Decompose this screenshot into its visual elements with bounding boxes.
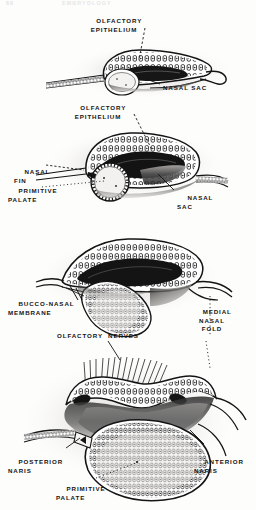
label-fig4-anterior-naris: ANTERIOR NARIS	[194, 450, 254, 484]
label-fig1-olfactory-epithelium: OLFACTORY EPITHELIUM	[74, 9, 154, 43]
label-fig2-olfactory-epithelium: OLFACTORY EPITHELIUM	[58, 96, 138, 130]
label-fig4-olfactory-nerves: OLFACTORY NERVES	[57, 332, 139, 340]
label-fig2-nasal-sac: NASAL SAC	[177, 186, 221, 220]
label-fig1-nasal-sac: NASAL SAC	[163, 84, 207, 92]
anatomical-plate-illustration	[0, 0, 256, 510]
label-fig3-medial-nasal-fold: MEDIAL NASAL FOLD	[188, 300, 236, 342]
figure-plate-page: 60 EMBRYOLOGY	[0, 0, 256, 510]
label-fig3-bucco-nasal-membrane: BUCCO-NASAL MEMBRANE	[8, 292, 94, 326]
label-fig2-primitive-palate: PRIMITIVE PALATE	[8, 179, 70, 213]
label-fig4-primitive-palate: PRIMITIVE PALATE	[56, 477, 118, 510]
